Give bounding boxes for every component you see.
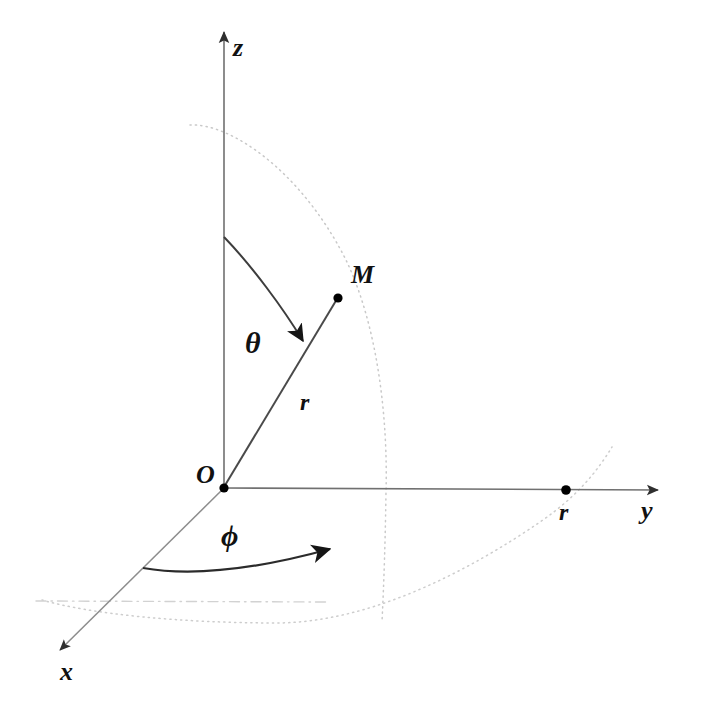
radius-on-y-axis-dot [561,485,571,495]
radius-on-y-axis-label: r [559,500,568,524]
radius-segment-om [224,299,337,487]
origin-label: O [196,462,215,488]
spherical-coordinate-diagram: z y x O M r r θ ϕ [0,0,704,721]
point-m-dot [333,293,342,302]
x-axis-label: x [60,659,73,685]
z-axis-label: z [233,35,243,61]
azimuth-angle-arc [143,549,330,572]
x-axis-line [60,488,224,650]
azimuth-angle-label: ϕ [221,521,238,551]
y-axis-label: y [641,498,653,524]
polar-angle-arc [224,237,303,341]
diagram-canvas [0,0,704,721]
horizontal-guide-dashdot [36,601,330,602]
radius-line-label: r [300,390,309,414]
equator-ellipse-dotted [42,447,612,623]
y-axis-line [224,488,658,490]
point-m-label: M [351,262,374,288]
meridian-arc-dotted [190,125,386,622]
polar-angle-label: θ [245,328,261,358]
origin-point-dot [219,483,228,492]
